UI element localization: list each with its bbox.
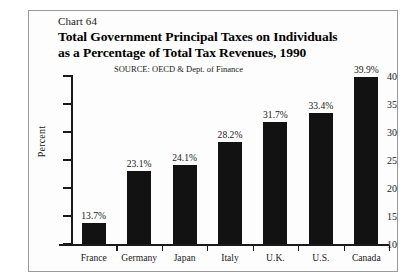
x-axis-category-label: U.S. xyxy=(312,252,329,263)
y-axis-tick xyxy=(63,159,71,160)
y-axis-title: Percent xyxy=(36,112,47,172)
bar xyxy=(82,223,106,244)
bar-value-label: 39.9% xyxy=(354,64,379,75)
bar xyxy=(173,165,197,244)
y-axis-tick xyxy=(63,215,71,216)
chart-title-line-2: as a Percentage of Total Tax Revenues, 1… xyxy=(58,45,306,61)
x-axis-category-label: Germany xyxy=(121,252,157,263)
chart-number: Chart 64 xyxy=(58,15,97,27)
bar-value-label: 31.7% xyxy=(263,109,288,120)
x-axis-category-label: U.K. xyxy=(266,252,285,263)
x-axis-tick xyxy=(162,245,163,251)
bar xyxy=(263,122,287,244)
x-axis-category-label: Italy xyxy=(221,252,239,263)
x-axis-tick xyxy=(344,245,345,251)
bar-value-label: 33.4% xyxy=(308,100,333,111)
x-axis-tick xyxy=(389,245,390,251)
chart-source-note: SOURCE: OECD & Dept. of Finance xyxy=(114,64,243,74)
bar xyxy=(127,171,151,244)
y-axis-line xyxy=(71,75,73,245)
y-axis-tick xyxy=(63,187,71,188)
y-axis-tick xyxy=(63,131,71,132)
bar xyxy=(354,77,378,244)
chart-figure: Chart 64 Total Government Principal Taxe… xyxy=(28,10,398,272)
bar-value-label: 28.2% xyxy=(218,129,243,140)
x-axis-category-label: France xyxy=(81,252,107,263)
y-axis-tick xyxy=(63,103,71,104)
bar-value-label: 13.7% xyxy=(81,210,106,221)
x-axis-tick xyxy=(253,245,254,251)
bar-value-label: 23.1% xyxy=(127,158,152,169)
bar xyxy=(309,113,333,244)
x-axis-tick xyxy=(207,245,208,251)
x-axis-tick xyxy=(116,245,117,251)
x-axis-category-label: Canada xyxy=(352,252,381,263)
x-axis-category-label: Japan xyxy=(174,252,196,263)
x-axis-line xyxy=(59,244,389,246)
chart-title-line-1: Total Government Principal Taxes on Indi… xyxy=(58,29,338,45)
bar-value-label: 24.1% xyxy=(172,152,197,163)
x-axis-tick xyxy=(298,245,299,251)
y-axis-tick xyxy=(63,75,71,76)
bar xyxy=(218,142,242,244)
y-axis-tick xyxy=(63,243,71,244)
